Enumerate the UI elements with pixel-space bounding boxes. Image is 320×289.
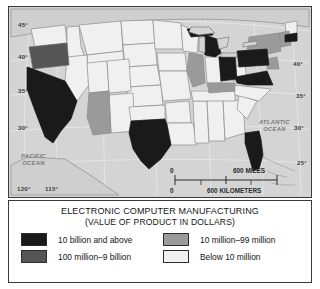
scale-km-zero: 0 [170, 187, 174, 194]
legend-title-line2: (VALUE OF PRODUCT IN DOLLARS) [9, 217, 311, 228]
state-massachusetts [285, 33, 297, 42]
atlantic-ocean-label: ATLANTIC OCEAN [259, 119, 290, 133]
map-panel: 45° 40° 35° 30° 40° 35° 30° 25° 120° 115… [8, 6, 312, 198]
scale-miles-label: 600 MILES [233, 167, 265, 174]
scale-bar: 0 600 MILES 0 600 KILOMETERS [169, 167, 291, 197]
pacific-ocean-line2: OCEAN [22, 160, 44, 166]
state-kentucky [207, 83, 235, 93]
state-montana [79, 21, 123, 55]
pacific-ocean-line1: PACIFIC [21, 153, 46, 159]
legend-panel: ELECTRONIC COMPUTER MANUFACTURING (VALUE… [8, 200, 312, 283]
state-colorado [107, 59, 131, 93]
legend-title-line1: ELECTRONIC COMPUTER MANUFACTURING [9, 206, 311, 217]
atlantic-ocean-line1: ATLANTIC [259, 119, 290, 125]
atlantic-ocean-line2: OCEAN [263, 126, 285, 132]
lake-erie [221, 53, 237, 57]
scale-km-label: 600 KILOMETERS [207, 187, 261, 194]
state-arizona [87, 91, 111, 135]
legend-swatch-10m-99m [163, 233, 189, 246]
lake-huron [217, 37, 229, 49]
state-ohio [219, 55, 237, 81]
state-alabama [207, 99, 225, 141]
legend-label-below-10m: Below 10 million [200, 252, 261, 262]
state-north-dakota [121, 20, 155, 45]
legend-item-10m-99m[interactable]: 10 million–99 million [163, 233, 305, 246]
map-figure: 45° 40° 35° 30° 40° 35° 30° 25° 120° 115… [0, 0, 320, 289]
state-missouri [159, 71, 191, 101]
state-indiana [205, 57, 221, 83]
state-pennsylvania [237, 49, 269, 67]
states-tier-100m-9b [29, 43, 69, 69]
legend-label-10b-plus: 10 billion and above [58, 235, 133, 245]
legend-swatch-10b-plus [21, 233, 47, 246]
scale-miles-zero: 0 [170, 167, 174, 174]
legend-swatch-below-10m [163, 250, 189, 263]
state-mississippi [193, 101, 209, 143]
state-oregon [29, 43, 69, 69]
lake-michigan [199, 37, 205, 53]
state-arkansas [165, 101, 191, 123]
pacific-ocean-label: PACIFIC OCEAN [21, 153, 46, 167]
legend-item-10b-plus[interactable]: 10 billion and above [21, 233, 163, 246]
state-louisiana [167, 123, 197, 145]
legend-label-100m-9b: 100 million–9 billion [58, 252, 131, 262]
state-utah [87, 61, 109, 93]
state-iowa [157, 53, 187, 71]
state-oklahoma [129, 105, 165, 121]
legend-item-below-10m[interactable]: Below 10 million [163, 250, 305, 263]
state-minnesota [153, 20, 183, 49]
legend-item-100m-9b[interactable]: 100 million–9 billion [21, 250, 163, 263]
legend-label-10m-99m: 10 million–99 million [200, 235, 275, 245]
legend-entries: 10 billion and above 10 million–99 milli… [9, 233, 311, 263]
legend-title: ELECTRONIC COMPUTER MANUFACTURING (VALUE… [9, 201, 311, 228]
legend-swatch-100m-9b [21, 250, 47, 263]
